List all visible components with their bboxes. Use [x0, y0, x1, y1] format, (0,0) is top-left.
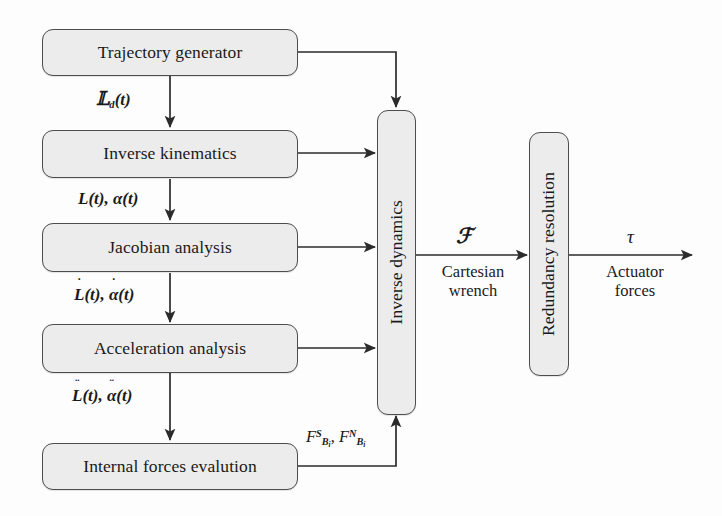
- symbol-L-dot: ̇L: [74, 285, 84, 305]
- edge-label-L-alpha-dot: ̇L(t), ̇α(t): [74, 285, 134, 305]
- edge-label-L-alpha: L(t), α(t): [78, 189, 138, 209]
- caption-line-1: Cartesian: [442, 262, 504, 281]
- edge-label-L-alpha-ddot: ̈L(t), ̈α(t): [72, 386, 132, 406]
- symbol-F-normal: F: [339, 427, 349, 446]
- node-redundancy-resolution[interactable]: Redundancy resolution: [529, 132, 569, 376]
- edge-label-torque-symbol: τ: [627, 226, 634, 248]
- node-internal-forces-evaluation[interactable]: Internal forces evalution: [42, 443, 298, 490]
- node-label: Trajectory generator: [98, 43, 243, 62]
- node-inverse-dynamics[interactable]: Inverse dynamics: [377, 110, 416, 415]
- node-label: Inverse dynamics: [387, 200, 406, 325]
- symbol-subscript-Bi: Bi: [356, 436, 365, 447]
- node-label: Inverse kinematics: [103, 144, 237, 163]
- caption-cartesian-wrench: Cartesian wrench: [418, 262, 528, 301]
- node-inverse-kinematics[interactable]: Inverse kinematics: [42, 130, 298, 178]
- symbol-arg: (t): [115, 90, 131, 109]
- node-label: Internal forces evalution: [83, 457, 257, 476]
- symbol-script-x: 𝕃: [96, 87, 109, 109]
- caption-line-1: Actuator: [606, 262, 664, 281]
- symbol-F-shear: F: [306, 427, 316, 446]
- edge-label-wrench-symbol: ℱ: [456, 224, 473, 248]
- node-label: Acceleration analysis: [94, 339, 246, 358]
- symbol-script-F: ℱ: [456, 223, 473, 248]
- symbol-tau: τ: [627, 226, 634, 247]
- edge-label-xd: 𝕃d(t): [96, 88, 131, 111]
- symbol-alpha-dot: ̇α: [109, 285, 118, 305]
- node-label: Redundancy resolution: [539, 172, 558, 336]
- node-label: Jacobian analysis: [108, 238, 232, 257]
- caption-line-2: forces: [615, 281, 655, 300]
- caption-actuator-forces: Actuator forces: [581, 262, 689, 301]
- symbol-alpha-ddot: ̈α: [107, 386, 116, 406]
- edge-trajectory-to-dynamics: [298, 52, 396, 107]
- caption-line-2: wrench: [449, 281, 498, 300]
- node-trajectory-generator[interactable]: Trajectory generator: [42, 29, 298, 76]
- symbol-L: L: [78, 189, 88, 208]
- symbol-alpha: α: [113, 189, 122, 208]
- diagram-canvas: Trajectory generator Inverse kinematics …: [0, 0, 722, 516]
- edge-label-internal-forces: FSBi, FNBi: [306, 428, 365, 449]
- symbol-superscript-S: S: [316, 428, 322, 439]
- node-jacobian-analysis[interactable]: Jacobian analysis: [42, 223, 298, 272]
- symbol-subscript-Bi: Bi: [322, 436, 331, 447]
- node-acceleration-analysis[interactable]: Acceleration analysis: [42, 324, 298, 373]
- symbol-L-ddot: ̈L: [72, 386, 82, 406]
